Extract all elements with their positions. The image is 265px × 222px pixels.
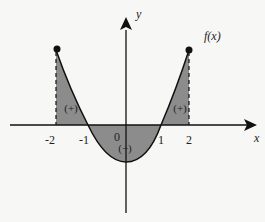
region-sign-left: (+) (64, 102, 78, 115)
signed-area-diagram: y x f(x) -2 -1 0 1 2 (+) (−) (+) (0, 0, 265, 222)
function-label: f(x) (204, 29, 221, 43)
y-axis-arrow-icon (120, 17, 132, 30)
region-sign-right: (+) (173, 102, 187, 115)
y-axis-label: y (135, 7, 142, 21)
tick-label-1: 1 (158, 133, 164, 147)
tick-label-neg1: -1 (79, 133, 89, 147)
region-sign-middle: (−) (118, 142, 132, 155)
endpoint-dot-left (54, 46, 61, 53)
x-axis-label: x (253, 131, 260, 145)
tick-label-2: 2 (186, 133, 192, 147)
endpoint-dot-right (186, 47, 193, 54)
tick-label-neg2: -2 (45, 133, 55, 147)
